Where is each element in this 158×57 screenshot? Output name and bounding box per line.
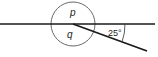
angle-arc [122, 24, 125, 42]
label-q: q [67, 29, 73, 40]
label-p: p [69, 7, 76, 18]
angle-diagram: p q 25° [0, 0, 158, 57]
label-angle: 25° [108, 28, 122, 38]
